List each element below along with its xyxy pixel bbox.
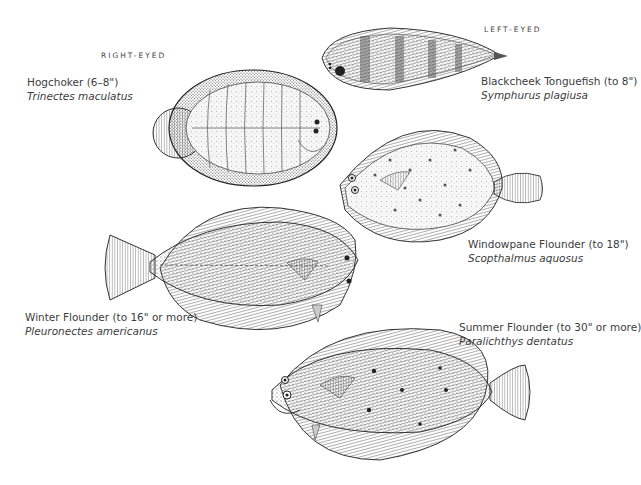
summer-flounder-common-name: Summer Flounder (to 30" or more): [459, 320, 641, 334]
windowpane-flounder-scientific-name: Scopthalmus aquosus: [468, 251, 629, 265]
summer-flounder-label: Summer Flounder (to 30" or more) Paralic…: [459, 320, 641, 348]
summer-flounder-scientific-name: Paralichthys dentatus: [459, 334, 641, 348]
blackcheek-tonguefish-scientific-name: Symphurus plagiusa: [481, 88, 637, 102]
windowpane-flounder-common-name: Windowpane Flounder (to 18"): [468, 237, 629, 251]
hogchoker-common-name: Hogchoker (6–8"): [27, 75, 133, 89]
hogchoker-illustration: [153, 70, 337, 186]
winter-flounder-label: Winter Flounder (to 16" or more) Pleuron…: [25, 310, 197, 338]
windowpane-flounder-label: Windowpane Flounder (to 18") Scopthalmus…: [468, 237, 629, 265]
left-eyed-heading: LEFT-EYED: [484, 25, 542, 34]
windowpane-flounder-illustration: [340, 130, 543, 242]
winter-flounder-scientific-name: Pleuronectes americanus: [25, 324, 197, 338]
summer-flounder-illustration: [270, 329, 530, 460]
hogchoker-scientific-name: Trinectes maculatus: [27, 89, 133, 103]
winter-flounder-common-name: Winter Flounder (to 16" or more): [25, 310, 197, 324]
hogchoker-label: Hogchoker (6–8") Trinectes maculatus: [27, 75, 133, 103]
blackcheek-tonguefish-label: Blackcheek Tonguefish (to 8") Symphurus …: [481, 74, 637, 102]
right-eyed-heading: RIGHT-EYED: [101, 51, 166, 60]
blackcheek-tonguefish-common-name: Blackcheek Tonguefish (to 8"): [481, 74, 637, 88]
